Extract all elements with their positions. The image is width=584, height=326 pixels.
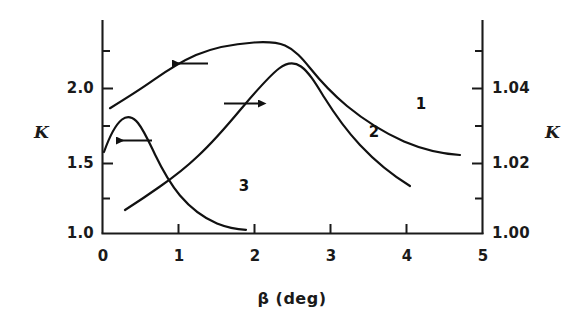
xtick-label-1: 1	[174, 247, 185, 265]
ytick-label-right-1.02: 1.02	[492, 154, 530, 172]
ytick-label-left-1.0: 1.0	[40, 224, 94, 242]
xtick-label-5: 5	[478, 247, 489, 265]
curve-label-2: 2	[369, 123, 379, 141]
ytick-label-left-1.5: 1.5	[40, 154, 94, 172]
ytick-label-left-2.0: 2.0	[40, 79, 94, 97]
y-axis-right-title: K	[545, 122, 560, 142]
xtick-label-0: 0	[98, 247, 109, 265]
ytick-label-right-1.00: 1.00	[492, 224, 530, 242]
curve-2-path	[125, 63, 410, 210]
curve-label-3: 3	[239, 177, 249, 195]
y-axis-left-title: K	[34, 122, 49, 142]
chart-figure: 2.0 1.5 1.0 1.04 1.02 1.00 0 1 2 3 4 5 K…	[0, 0, 584, 326]
data-curves	[104, 42, 460, 230]
curve-1-path	[110, 42, 460, 155]
xtick-label-4: 4	[402, 247, 413, 265]
x-axis-ticks	[179, 224, 407, 234]
y-axis-left-ticks	[103, 51, 114, 199]
curve-label-1: 1	[416, 95, 426, 113]
y-axis-right-ticks	[472, 51, 483, 199]
curve-3-path	[104, 117, 246, 230]
xtick-label-2: 2	[250, 247, 261, 265]
pointer-arrows	[116, 64, 258, 141]
x-axis-title: β (deg)	[258, 289, 327, 308]
axis-lines	[102, 20, 484, 234]
xtick-label-3: 3	[326, 247, 337, 265]
ytick-label-right-1.04: 1.04	[492, 79, 530, 97]
